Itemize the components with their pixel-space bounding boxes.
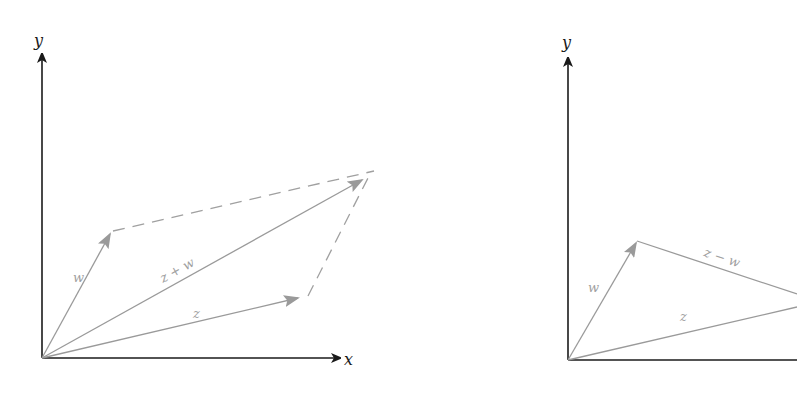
right-label-z: z: [679, 309, 687, 324]
left-label-z: z: [192, 306, 200, 321]
left-y-axis-label: y: [33, 31, 44, 50]
left-dashed-right-edge: [308, 178, 368, 296]
left-dashed-top-edge: [113, 171, 374, 231]
right-label-z-minus-w: z − w: [701, 244, 742, 270]
left-diagram: y x w z z + w: [33, 31, 374, 369]
left-vector-z-plus-w: [42, 180, 362, 358]
right-vector-w: [568, 243, 636, 360]
right-diagram: y w z z − w: [561, 33, 797, 360]
left-vector-z: [42, 298, 298, 358]
left-label-w: w: [73, 270, 84, 285]
vector-diagrams: y x w z z + w y w z z − w: [0, 0, 797, 393]
left-x-axis-label: x: [344, 350, 353, 369]
right-y-axis-label: y: [561, 33, 572, 52]
left-label-z-plus-w: z + w: [156, 254, 197, 286]
right-label-w: w: [588, 280, 599, 295]
